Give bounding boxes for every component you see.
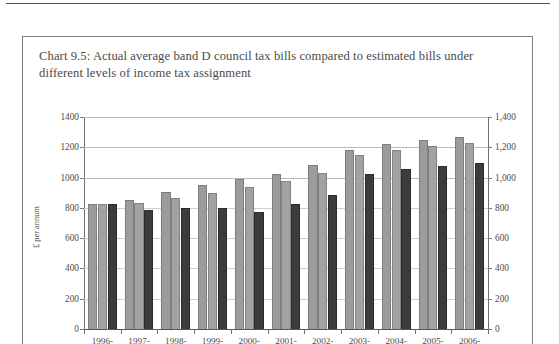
y-tick-mark-left-1200: [80, 147, 84, 148]
bar: [455, 137, 464, 329]
bar-group: [235, 117, 264, 329]
bar-group: [345, 117, 374, 329]
bar: [272, 174, 281, 329]
bar: [171, 198, 180, 329]
y-tick-label-right-600: 600: [495, 233, 509, 243]
y-tick-mark-right-800: [488, 208, 492, 209]
x-tick-mark: [451, 329, 452, 334]
y-tick-mark-left-200: [80, 299, 84, 300]
bar: [88, 204, 97, 329]
bar: [218, 208, 227, 329]
bar: [281, 181, 290, 329]
bar: [245, 187, 254, 329]
bar: [235, 179, 244, 329]
x-tick-mark: [488, 329, 489, 334]
bar-group: [198, 117, 227, 329]
x-axis-label: 2002-: [312, 336, 333, 344]
bar: [318, 173, 327, 329]
bar: [134, 203, 143, 329]
y-tick-label-left-200: 200: [65, 294, 79, 304]
x-tick-mark: [157, 329, 158, 334]
x-axis-label: 1997-: [128, 336, 149, 344]
x-tick-mark: [84, 329, 85, 334]
x-axis-line: [84, 329, 488, 330]
x-tick-mark: [304, 329, 305, 334]
y-tick-label-left-800: 800: [65, 203, 79, 213]
bar: [345, 150, 354, 329]
bar-group: [419, 117, 448, 329]
x-axis-label: 2003-: [349, 336, 370, 344]
y-tick-label-left-400: 400: [65, 263, 79, 273]
y-tick-label-left-1000: 1000: [60, 173, 79, 183]
y-axis-title: £ per annum: [29, 187, 43, 267]
plot-wrapper: £ per annum 0200400600800100012001400 02…: [23, 37, 534, 344]
bar: [108, 204, 117, 329]
y-tick-mark-right-400: [488, 268, 492, 269]
bar: [308, 165, 317, 329]
bar: [328, 195, 337, 329]
x-tick-mark: [194, 329, 195, 334]
bar-group: [161, 117, 190, 329]
x-axis-label: 1998-: [165, 336, 186, 344]
x-axis-label: 2005-: [422, 336, 443, 344]
bar-group: [382, 117, 411, 329]
y-axis-left-line: [84, 117, 85, 329]
x-axis-label: 2001-: [275, 336, 296, 344]
bar-group: [88, 117, 117, 329]
y-tick-label-right-400: 400: [495, 263, 509, 273]
bar: [125, 200, 134, 329]
page-root: Chart 9.5: Actual average band D council…: [0, 0, 559, 344]
y-tick-mark-right-1000: [488, 178, 492, 179]
bar-group: [455, 117, 484, 329]
x-tick-mark: [341, 329, 342, 334]
x-axis-label: 1999-: [202, 336, 223, 344]
bar: [419, 140, 428, 329]
y-tick-label-left-1200: 1200: [60, 142, 79, 152]
bar: [198, 185, 207, 329]
bar: [428, 146, 437, 329]
x-tick-mark: [415, 329, 416, 334]
bar: [98, 204, 107, 329]
x-axis-label: 2006-: [459, 336, 480, 344]
bar: [208, 193, 217, 329]
bar: [475, 163, 484, 329]
bar-group: [125, 117, 154, 329]
y-tick-mark-left-600: [80, 238, 84, 239]
y-tick-label-left-1400: 1400: [60, 112, 79, 122]
bar: [291, 204, 300, 329]
bar-group: [308, 117, 337, 329]
x-axis-label: 1996-: [92, 336, 113, 344]
bar: [254, 212, 263, 329]
top-horizontal-rule: [6, 3, 550, 4]
y-tick-mark-right-1400: [488, 117, 492, 118]
y-tick-label-right-1400: 1,400: [495, 112, 516, 122]
bar: [392, 150, 401, 329]
bar: [144, 210, 153, 329]
x-tick-mark: [378, 329, 379, 334]
y-tick-label-left-600: 600: [65, 233, 79, 243]
x-tick-mark: [268, 329, 269, 334]
plot-area: 0200400600800100012001400 02004006008001…: [84, 117, 488, 329]
bar: [401, 169, 410, 329]
y-tick-mark-right-200: [488, 299, 492, 300]
y-tick-mark-left-800: [80, 208, 84, 209]
y-tick-label-right-200: 200: [495, 294, 509, 304]
bar: [355, 155, 364, 329]
bar: [438, 166, 447, 329]
bar: [382, 144, 391, 329]
y-tick-mark-right-600: [488, 238, 492, 239]
y-tick-label-right-800: 800: [495, 203, 509, 213]
y-axis-right-line: [488, 117, 489, 329]
y-tick-label-left-0: 0: [74, 324, 79, 334]
bar: [181, 208, 190, 329]
bar: [465, 143, 474, 329]
x-tick-mark: [231, 329, 232, 334]
chart-frame: Chart 9.5: Actual average band D council…: [22, 36, 533, 344]
y-tick-mark-left-1400: [80, 117, 84, 118]
x-axis-label: 2000-: [239, 336, 260, 344]
x-tick-mark: [121, 329, 122, 334]
y-tick-label-right-1000: 1,000: [495, 173, 516, 183]
bar-group: [272, 117, 301, 329]
y-tick-mark-left-400: [80, 268, 84, 269]
bar: [365, 174, 374, 329]
